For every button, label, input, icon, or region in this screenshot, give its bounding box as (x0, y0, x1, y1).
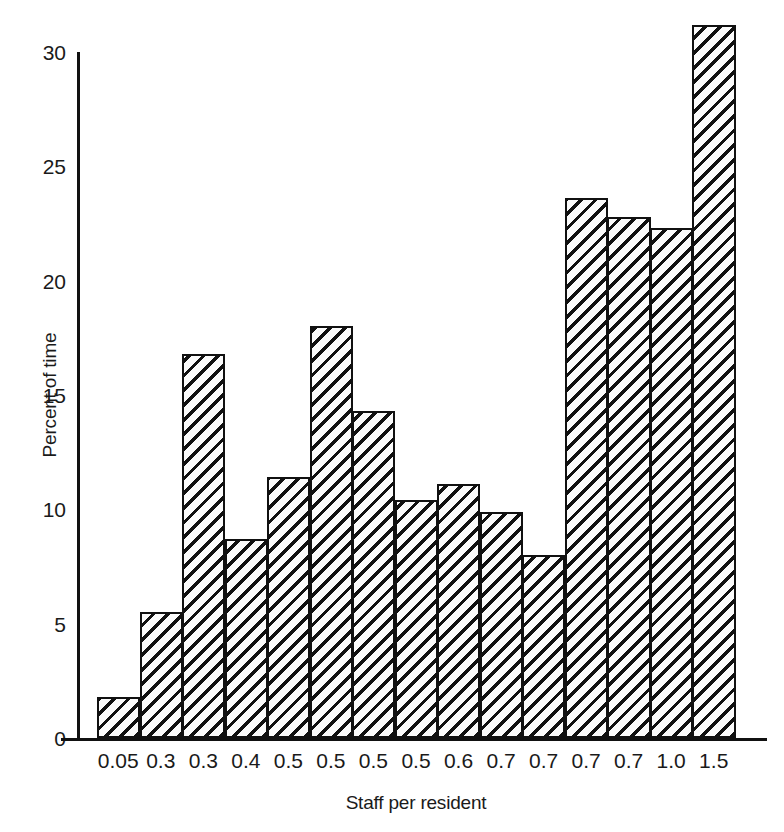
x-axis-tick-label: 0.7 (572, 748, 601, 774)
bar (267, 477, 310, 738)
x-axis-tick-label: 0.3 (189, 748, 218, 774)
bar (522, 555, 565, 738)
x-axis-tick-label: 0.4 (231, 748, 260, 774)
y-axis-tick-label: 15 (28, 385, 66, 406)
x-axis-tick-label: 0.3 (146, 748, 175, 774)
bar (140, 612, 183, 738)
x-axis-tick-labels: 0.050.30.30.40.50.50.50.50.60.70.70.70.7… (97, 748, 735, 780)
x-axis-title: Staff per resident (97, 792, 735, 814)
x-axis-tick-label: 0.5 (359, 748, 388, 774)
bar (182, 354, 225, 738)
bar (437, 484, 480, 738)
y-axis-tick-label: 25 (28, 156, 66, 177)
y-axis-tick-label: 5 (28, 613, 66, 634)
x-axis-tick-label: 0.7 (614, 748, 643, 774)
bar (692, 25, 735, 738)
bar (97, 697, 140, 738)
bar (480, 512, 523, 738)
x-axis-line (61, 738, 767, 741)
x-axis-tick-label: 0.05 (98, 748, 139, 774)
y-axis-tick-label: 20 (28, 270, 66, 291)
bar (395, 500, 438, 738)
x-axis-tick-label: 0.7 (529, 748, 558, 774)
bar (225, 539, 268, 738)
bar (650, 228, 693, 738)
bar (352, 411, 395, 738)
x-axis-tick-label: 0.5 (316, 748, 345, 774)
x-axis-tick-label: 0.7 (486, 748, 515, 774)
x-axis-tick-label: 0.6 (444, 748, 473, 774)
x-axis-tick-label: 0.5 (401, 748, 430, 774)
x-axis-tick-label: 1.5 (699, 748, 728, 774)
bar (310, 326, 353, 738)
bar (607, 217, 650, 738)
x-axis-tick-label: 1.0 (657, 748, 686, 774)
bar (565, 198, 608, 738)
y-axis-tick-label: 30 (28, 42, 66, 63)
plot-area (97, 52, 735, 738)
y-axis-tick-labels: 051015202530 (28, 0, 66, 832)
x-axis-tick-label: 0.5 (274, 748, 303, 774)
y-axis-line (77, 52, 80, 741)
histogram-figure: Percent of time 051015202530 0.050.30.30… (0, 0, 784, 832)
y-axis-tick-label: 10 (28, 499, 66, 520)
